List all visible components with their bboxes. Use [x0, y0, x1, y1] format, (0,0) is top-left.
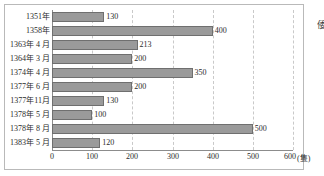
- bar-row: 1378年 8 月 500: [0, 122, 324, 136]
- bar-row: 1383年 5 月 120: [0, 136, 324, 150]
- bar-value-label: 120: [100, 137, 114, 149]
- bar: [52, 82, 132, 92]
- bar: [52, 68, 193, 78]
- bar-chart-plot: 1351年 130 1358年 400 1363年 4 月 213: [0, 0, 324, 176]
- x-axis-line: [52, 150, 293, 151]
- category-label: 1383年 5 月: [10, 136, 50, 150]
- xtick-label-200: 200: [126, 152, 138, 161]
- xtick-label-300: 300: [167, 152, 179, 161]
- bar: [52, 138, 100, 148]
- bar-track: 350: [52, 68, 293, 78]
- category-label: 1364年 3 月: [10, 52, 50, 66]
- bar-track: 200: [52, 82, 293, 92]
- bar-rows: 1351年 130 1358年 400 1363年 4 月 213: [0, 10, 324, 150]
- bar-track: 200: [52, 54, 293, 64]
- bar-value-label: 400: [213, 25, 227, 37]
- bar-track: 400: [52, 26, 293, 36]
- category-label: 1377年 6 月: [10, 80, 50, 94]
- bar-track: 130: [52, 96, 293, 106]
- bar-value-label: 130: [104, 95, 118, 107]
- xtick-label-600: 600: [284, 152, 296, 161]
- bar-value-label: 213: [138, 39, 152, 51]
- bar-value-label: 500: [253, 123, 267, 135]
- bar-value-label: 130: [104, 11, 118, 23]
- bar-track: 100: [52, 110, 293, 120]
- bar: [52, 54, 132, 64]
- clipped-margin-character: 倭: [317, 18, 324, 31]
- bar-value-label: 200: [132, 81, 146, 93]
- category-label: 1358年: [26, 24, 50, 38]
- bar-row: 1351年 130: [0, 10, 324, 24]
- bar-track: 120: [52, 138, 293, 148]
- xtick-label-0: 0: [50, 152, 54, 161]
- bar-row: 1378年 5 月 100: [0, 108, 324, 122]
- bar-row: 1358年 400: [0, 24, 324, 38]
- bar-row: 1377年 6 月 200: [0, 80, 324, 94]
- xtick-label-400: 400: [207, 152, 219, 161]
- bar-row: 1374年 4 月 350: [0, 66, 324, 80]
- bar-track: 130: [52, 12, 293, 22]
- bar: [52, 12, 104, 22]
- bar-track: 500: [52, 124, 293, 134]
- bar-row: 1364年 3 月 200: [0, 52, 324, 66]
- bar: [52, 110, 92, 120]
- bar-row: 1363年 4 月 213: [0, 38, 324, 52]
- category-label: 1378年 5 月: [10, 108, 50, 122]
- category-label: 1374年 4 月: [10, 66, 50, 80]
- bar: [52, 26, 213, 36]
- category-label: 1363年 4 月: [10, 38, 50, 52]
- category-label: 1378年 8 月: [10, 122, 50, 136]
- bar-row: 1377年11月 130: [0, 94, 324, 108]
- bar: [52, 124, 253, 134]
- xtick-label-100: 100: [86, 152, 98, 161]
- figure: 1351年 130 1358年 400 1363年 4 月 213: [0, 0, 324, 176]
- bar-value-label: 200: [132, 53, 146, 65]
- bar-track: 213: [52, 40, 293, 50]
- category-label: 1377年11月: [10, 94, 50, 108]
- category-label: 1351年: [26, 10, 50, 24]
- bar-value-label: 350: [193, 67, 207, 79]
- xtick-label-500: 500: [247, 152, 259, 161]
- bar-value-label: 100: [92, 109, 106, 121]
- bar: [52, 40, 138, 50]
- bar: [52, 96, 104, 106]
- x-axis-unit-label: (隻): [297, 152, 310, 163]
